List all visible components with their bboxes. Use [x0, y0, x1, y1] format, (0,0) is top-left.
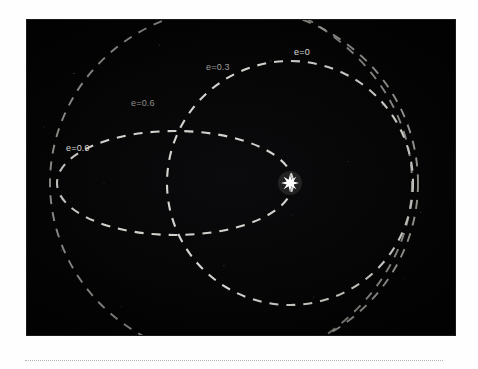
figure-root: e=0e=0.3e=0.6e=0.9: [0, 0, 478, 369]
orbit-label-e09: e=0.9: [66, 143, 90, 153]
orbit-ellipse-e03: [50, 20, 418, 335]
astronomy-plate: e=0e=0.3e=0.6e=0.9: [27, 20, 455, 335]
orbit-label-e06: e=0.6: [131, 98, 155, 108]
central-star-group: [278, 171, 302, 195]
orbit-label-e03: e=0.3: [206, 62, 230, 72]
orbit-label-e0: e=0: [294, 47, 310, 57]
caption-divider: [25, 360, 443, 362]
central-star-icon: [281, 174, 299, 192]
orbit-ellipse-e09: [57, 131, 293, 235]
orbit-plot: [27, 20, 455, 335]
